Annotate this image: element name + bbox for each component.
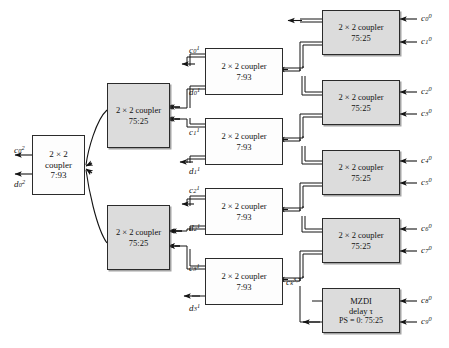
mzdi-line3: PS = 0: 75:25 [339, 316, 383, 325]
output-coupler-line3: 7:93 [50, 170, 66, 181]
stage2-coupler-top[interactable]: 2 × 2 coupler 75:25 [107, 83, 170, 148]
stage1-label-c2: c21 [189, 184, 200, 195]
input-coupler-0-line1: 2 × 2 coupler [338, 22, 383, 32]
stage1-coupler-3-line2: 7:93 [236, 282, 251, 292]
input-coupler-2-line1: 2 × 2 coupler [338, 162, 383, 172]
stage1-label-d2: d21 [189, 222, 200, 233]
stage1-coupler-0-line1: 2 × 2 coupler [221, 61, 266, 71]
stage1-coupler-3[interactable]: 2 × 2 coupler 7:93 [205, 258, 283, 305]
stage1-label-c0: c01 [189, 44, 200, 55]
stage1-coupler-2-line2: 7:93 [236, 212, 251, 222]
output-coupler-line2: coupler [45, 160, 72, 171]
input-coupler-2[interactable]: 2 × 2 coupler 75:25 [322, 150, 400, 195]
input-coupler-3[interactable]: 2 × 2 coupler 75:25 [322, 218, 400, 263]
input-label-c3: c30 [421, 107, 432, 118]
stage1-label-c1: c11 [189, 126, 200, 137]
stage1-label-d3: d31 [189, 302, 200, 313]
input-label-c1: c10 [421, 35, 432, 46]
input-label-c2: c20 [421, 85, 432, 96]
stage1-label-d1: d11 [189, 165, 200, 176]
input-coupler-0-line2: 75:25 [351, 33, 370, 43]
output-coupler[interactable]: 2 × 2 coupler 7:93 [32, 135, 85, 195]
final-label-c0: c02 [14, 144, 25, 155]
input-coupler-3-line1: 2 × 2 coupler [338, 230, 383, 240]
stage1-coupler-1-line2: 7:93 [236, 142, 251, 152]
input-coupler-1[interactable]: 2 × 2 coupler 75:25 [322, 80, 400, 125]
input-label-c4: c40 [421, 154, 432, 165]
input-coupler-1-line1: 2 × 2 coupler [338, 92, 383, 102]
mzdi-line1: MZDI [350, 296, 372, 306]
input-coupler-0[interactable]: 2 × 2 coupler 75:25 [322, 10, 400, 55]
stage1-label-d0: d01 [189, 86, 200, 97]
stage1-coupler-1-line1: 2 × 2 coupler [221, 131, 266, 141]
stage2-coupler-bottom-line2: 75:25 [129, 238, 148, 248]
mzdi-feed-label: ck3,7 [286, 276, 301, 287]
stage1-coupler-2-line1: 2 × 2 coupler [221, 201, 266, 211]
stage1-coupler-3-line1: 2 × 2 coupler [221, 271, 266, 281]
stage1-coupler-1[interactable]: 2 × 2 coupler 7:93 [205, 118, 283, 165]
input-coupler-3-line2: 75:25 [351, 241, 370, 251]
input-label-c8: c80 [421, 294, 432, 305]
stage1-label-c3: c31 [189, 262, 200, 273]
stage1-coupler-2[interactable]: 2 × 2 coupler 7:93 [205, 188, 283, 235]
stage2-coupler-bottom-line1: 2 × 2 coupler [116, 227, 161, 237]
input-coupler-2-line2: 75:25 [351, 173, 370, 183]
input-coupler-1-line2: 75:25 [351, 103, 370, 113]
input-label-c9: c90 [421, 315, 432, 326]
stage2-coupler-top-line1: 2 × 2 coupler [116, 105, 161, 115]
output-coupler-line1: 2 × 2 [49, 149, 68, 160]
stage2-coupler-bottom[interactable]: 2 × 2 coupler 75:25 [107, 205, 170, 270]
mzdi-block[interactable]: MZDI delay τ PS = 0: 75:25 [322, 288, 400, 333]
input-label-c5: c50 [421, 176, 432, 187]
mzdi-line2: delay τ [349, 306, 373, 316]
input-label-c7: c70 [421, 244, 432, 255]
input-label-c6: c60 [421, 222, 432, 233]
stage1-coupler-0-line2: 7:93 [236, 72, 251, 82]
input-label-c0: c00 [421, 12, 432, 23]
stage1-coupler-0[interactable]: 2 × 2 coupler 7:93 [205, 48, 283, 95]
diagram-canvas: 2 × 2 coupler 7:93 2 × 2 coupler 75:25 2… [0, 0, 449, 348]
final-label-d0: d02 [14, 178, 25, 189]
stage2-coupler-top-line2: 75:25 [129, 116, 148, 126]
